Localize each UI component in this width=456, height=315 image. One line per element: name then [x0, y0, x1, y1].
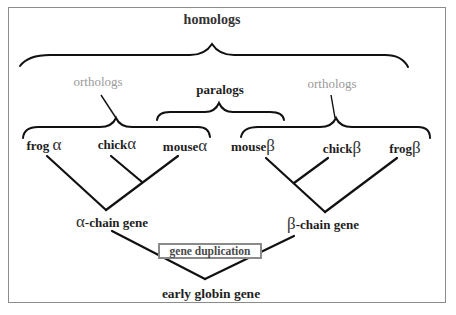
beta-chain-gene-label: β-chain gene — [287, 215, 359, 232]
leaf-organism: chick — [98, 137, 128, 152]
orthologs-right-label: orthologs — [307, 77, 356, 90]
alpha-symbol: α — [53, 135, 62, 154]
gene-duplication-label: gene duplication — [170, 245, 251, 257]
gene-duplication-event-box: gene duplication — [158, 243, 262, 259]
leaf-organism: mouse — [163, 139, 198, 154]
leaf-organism: mouse — [231, 139, 266, 154]
leaf-frog-alpha: frog α — [26, 136, 61, 153]
branch-frog-alpha — [47, 156, 106, 210]
early-globin-gene-label: early globin gene — [162, 287, 260, 301]
leaf-frog-beta: frogβ — [389, 139, 421, 156]
branch-chick-alpha — [111, 156, 142, 182]
leaf-chick-beta: chickβ — [323, 139, 361, 156]
leaf-organism: chick — [323, 141, 353, 156]
beta-symbol: β — [352, 138, 361, 157]
leaf-organism: frog — [389, 141, 412, 156]
alpha-chain-gene-label: α-chain gene — [76, 213, 148, 230]
alpha-symbol: α — [198, 136, 207, 155]
orthologs-left-label: orthologs — [73, 75, 122, 88]
alpha-symbol: α — [127, 134, 136, 153]
branch-frog-beta — [325, 158, 397, 212]
homologs-brace — [20, 44, 408, 67]
alpha-symbol: α — [76, 212, 85, 231]
paralogs-brace — [157, 103, 284, 120]
beta-symbol: β — [412, 138, 421, 157]
leaf-mouse-beta: mouseβ — [231, 137, 275, 154]
beta-symbol: β — [287, 214, 296, 233]
node-text: -chain gene — [296, 217, 359, 232]
leaf-organism: frog — [26, 138, 49, 153]
node-text: -chain gene — [85, 215, 148, 230]
tree-lines — [0, 0, 456, 315]
branch-chick-beta — [294, 158, 328, 183]
leaf-chick-alpha: chickα — [98, 135, 137, 152]
paralogs-label: paralogs — [196, 83, 244, 96]
homologs-label: homologs — [184, 13, 241, 27]
orthologs-left-pointer — [101, 95, 116, 118]
beta-symbol: β — [266, 136, 275, 155]
orthologs-right-pointer — [331, 95, 335, 118]
leaf-mouse-alpha: mouseα — [163, 137, 207, 154]
